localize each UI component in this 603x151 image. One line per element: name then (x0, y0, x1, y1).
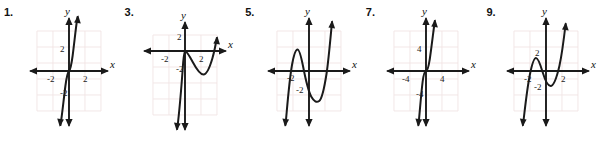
graph-svg-7: -4 4 4 -4 x y (362, 0, 483, 151)
xtick-positive-3: 2 (199, 54, 204, 64)
xtick-negative-1: -2 (47, 74, 54, 84)
exercise-figure-strip: 1. (0, 0, 603, 151)
xtick-negative-7: -4 (402, 74, 410, 84)
ytick-negative-5: -2 (296, 85, 303, 95)
ytick-positive-9: 2 (535, 48, 540, 58)
x-axis-label-7: x (470, 58, 476, 70)
y-axis-label-7: y (421, 5, 427, 17)
y-axis-label-5: y (304, 5, 310, 17)
xtick-negative-9: -2 (524, 74, 531, 84)
ytick-negative-1: -2 (60, 88, 67, 98)
graph-panel-1: 1. (0, 0, 121, 151)
xtick-negative-5: -2 (287, 73, 294, 83)
graph-panel-7: 7. (362, 0, 483, 151)
ytick-positive-3: 2 (177, 32, 182, 42)
xtick-positive-7: 4 (440, 74, 445, 84)
graph-panel-3: 3. (121, 0, 242, 151)
y-axis-label-3: y (180, 9, 186, 21)
y-axis-label-1: y (64, 5, 70, 17)
y-axis-label-9: y (541, 5, 547, 17)
x-axis-label-9: x (590, 58, 596, 70)
ytick-negative-7: -4 (416, 89, 424, 99)
xtick-positive-1: 2 (83, 74, 88, 84)
ytick-negative-3: -2 (176, 64, 183, 74)
ytick-positive-1: 2 (60, 44, 65, 54)
graph-svg-3: -2 2 2 -2 x y (121, 0, 242, 151)
graph-panel-9: 9. (482, 0, 603, 151)
x-axis-label-5: x (351, 58, 357, 70)
ytick-negative-9: -2 (534, 82, 541, 92)
graph-panel-5: 5. (241, 0, 362, 151)
graph-svg-5: -2 -2 x y (241, 0, 362, 151)
x-axis-label-1: x (109, 58, 115, 70)
graph-svg-1: -2 2 2 -2 x y (0, 0, 121, 151)
xtick-negative-3: -2 (161, 54, 168, 64)
x-axis-label-3: x (227, 38, 233, 50)
graph-svg-9: -2 2 2 -2 x y (482, 0, 603, 151)
ytick-positive-7: 4 (417, 44, 422, 54)
xtick-positive-9: 2 (561, 74, 566, 84)
